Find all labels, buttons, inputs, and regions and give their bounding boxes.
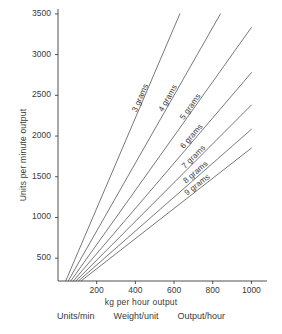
chart-figure: Units per minute output kg per hour outp…: [0, 0, 282, 334]
y-tick-label: 3500: [19, 9, 51, 18]
caption-weight-per-unit: Weight/unit: [114, 311, 159, 321]
caption-row: Units/min Weight/unit Output/hour: [0, 311, 282, 321]
x-tick-label: 1000: [234, 286, 268, 295]
y-tick-label: 2000: [19, 131, 51, 140]
x-tick-label: 400: [118, 286, 152, 295]
x-tick-label: 800: [196, 286, 230, 295]
caption-units-per-min: Units/min: [57, 311, 95, 321]
y-tick-label: 1500: [19, 172, 51, 181]
y-tick-label: 1000: [19, 212, 51, 221]
y-tick-label: 500: [19, 253, 51, 262]
y-tick-label: 2500: [19, 90, 51, 99]
caption-output-per-hour: Output/hour: [177, 311, 225, 321]
x-tick-label: 600: [157, 286, 191, 295]
x-tick-label: 200: [80, 286, 114, 295]
y-tick-label: 3000: [19, 50, 51, 59]
x-axis-title: kg per hour output: [0, 297, 282, 307]
